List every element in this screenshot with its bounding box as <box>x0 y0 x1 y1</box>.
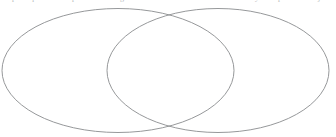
venn-diagram-figure: pqpgypj <box>0 0 336 137</box>
venn-diagram-canvas <box>0 0 336 137</box>
venn-circle-left[interactable] <box>2 9 234 133</box>
venn-circle-right[interactable] <box>107 9 329 133</box>
